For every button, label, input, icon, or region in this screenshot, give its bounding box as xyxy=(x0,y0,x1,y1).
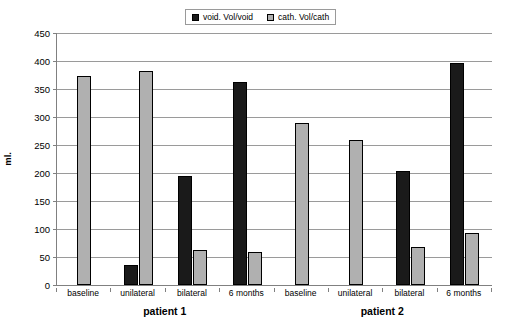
y-axis-tick-label: 50 xyxy=(20,252,50,263)
category-label: unilateral xyxy=(120,288,155,298)
bar-void xyxy=(450,63,464,285)
bar-cath xyxy=(193,250,207,285)
legend-label-void: void. Vol/void xyxy=(203,12,253,22)
y-axis-tick-label: 150 xyxy=(20,196,50,207)
category-tick xyxy=(56,288,57,292)
legend-swatch-void-icon xyxy=(192,14,199,21)
category-label: bilateral xyxy=(395,288,425,298)
category-tick xyxy=(274,288,275,292)
category-axis-labels: baselineunilateralbilateral6 monthsbasel… xyxy=(56,288,491,302)
bar-void xyxy=(233,82,247,285)
bar-chart: void. Vol/void cath. Vol/cath ml. 450400… xyxy=(0,0,506,328)
bar-void xyxy=(178,176,192,285)
y-axis-tick-label: 0 xyxy=(20,280,50,291)
y-axis-tick-label: 450 xyxy=(20,28,50,39)
y-axis-tick xyxy=(53,285,57,286)
chart-legend: void. Vol/void cath. Vol/cath xyxy=(185,9,336,25)
y-axis-tick-label: 100 xyxy=(20,224,50,235)
bar-cath xyxy=(411,247,425,285)
category-label: 6 months xyxy=(446,288,481,298)
bar-cath xyxy=(77,76,91,285)
group-label: patient 2 xyxy=(361,305,404,317)
bar-cath xyxy=(295,123,309,285)
category-tick xyxy=(382,288,383,292)
category-tick xyxy=(437,288,438,292)
category-label: bilateral xyxy=(177,288,207,298)
category-tick xyxy=(165,288,166,292)
y-axis-tick-label: 200 xyxy=(20,168,50,179)
category-label: unilateral xyxy=(338,288,373,298)
y-axis-tick-label: 250 xyxy=(20,140,50,151)
plot-area xyxy=(56,33,492,286)
category-tick xyxy=(219,288,220,292)
category-label: baseline xyxy=(285,288,317,298)
y-axis-tick-label: 400 xyxy=(20,56,50,67)
bar-void xyxy=(124,265,138,285)
y-axis-title: ml. xyxy=(2,152,13,166)
category-label: baseline xyxy=(67,288,99,298)
bar-cath xyxy=(248,252,262,285)
legend-entry-cath: cath. Vol/cath xyxy=(267,12,329,22)
y-axis-tick-label: 300 xyxy=(20,112,50,123)
category-label: 6 months xyxy=(229,288,264,298)
category-tick xyxy=(110,288,111,292)
category-tick xyxy=(491,288,492,292)
bars-layer xyxy=(57,33,492,285)
legend-entry-void: void. Vol/void xyxy=(192,12,253,22)
y-axis-labels: 450400350300250200150100500 xyxy=(18,33,50,285)
group-axis-labels: patient 1patient 2 xyxy=(56,305,491,321)
group-label: patient 1 xyxy=(143,305,186,317)
category-tick xyxy=(328,288,329,292)
bar-cath xyxy=(349,140,363,285)
legend-swatch-cath-icon xyxy=(267,14,274,21)
legend-label-cath: cath. Vol/cath xyxy=(278,12,329,22)
bar-void xyxy=(396,171,410,285)
bar-cath xyxy=(139,71,153,285)
bar-cath xyxy=(465,233,479,285)
y-axis-tick-label: 350 xyxy=(20,84,50,95)
